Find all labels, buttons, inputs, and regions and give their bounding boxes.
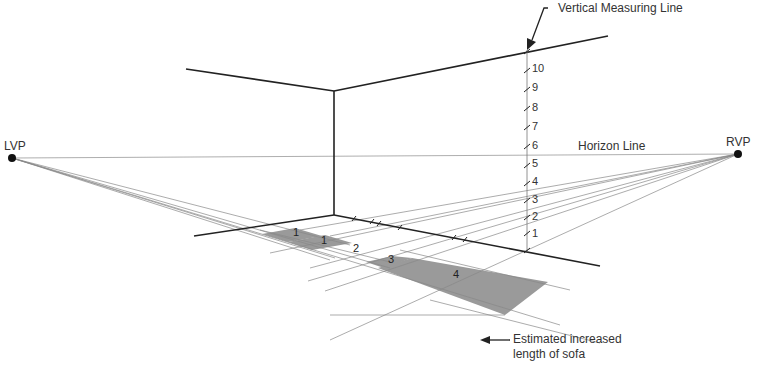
measure-tick-label: 2 [532,211,538,222]
rvp-point [734,150,742,158]
estimated-length-label-line1: Estimated increased [513,333,622,345]
measure-tick-label: 5 [532,158,538,169]
area-label-3: 3 [388,254,394,265]
measure-tick-label: 7 [532,121,538,132]
measure-tick-label: 6 [532,140,538,151]
vml-callout [532,8,548,40]
floor-left-edge [194,215,334,236]
rvp-label: RVP [726,136,750,148]
ceiling-left-edge [186,69,334,91]
area-label-1b: 1 [321,235,327,246]
lvp-point [8,154,16,162]
area-label-4: 4 [453,269,459,280]
lvp-label: LVP [4,140,26,152]
area-label-1a: 1 [293,227,299,238]
measure-tick-label: 10 [532,63,544,74]
perspective-diagram: LVP RVP Horizon Line Vertical Measuring … [0,0,759,367]
estimated-length-label-line2: length of sofa [513,348,585,360]
measure-tick-label: 9 [532,82,538,93]
measure-tick-label: 1 [532,228,538,239]
area-label-2: 2 [353,243,359,254]
sofa-arrowhead-icon [480,336,490,344]
lvp-lines [12,158,560,325]
measure-tick-label: 3 [532,194,538,205]
diagram-canvas [0,0,759,367]
horizon-line-label: Horizon Line [578,140,645,152]
vertical-measuring-line-label: Vertical Measuring Line [558,2,683,14]
measure-tick-label: 4 [532,176,538,187]
horizon-line [12,154,738,158]
ceiling-right-edge [334,36,608,91]
measure-tick-label: 8 [532,102,538,113]
